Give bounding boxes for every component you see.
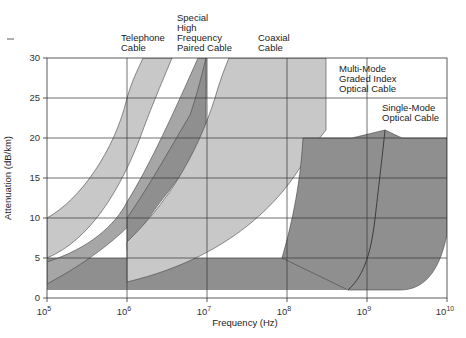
label-singlemode-optical: Single-Mode Optical Cable	[382, 103, 439, 123]
attenuation-chart: 0 5 10 15 20 25 30 105 106 107 108 109 1…	[0, 0, 466, 338]
x-tick-1e7: 107	[197, 305, 212, 317]
x-tick-1e6: 106	[117, 305, 132, 317]
y-axis-title: Attenuation (dB/km)	[2, 136, 13, 220]
x-tick-1e8: 108	[277, 305, 292, 317]
label-multimode-optical: Multi-Mode Graded Index Optical Cable	[339, 64, 397, 94]
y-tick-25: 25	[29, 92, 40, 103]
label-coaxial-cable: Coaxial Cable	[258, 33, 290, 53]
y-tick-15: 15	[29, 172, 40, 183]
y-tick-5: 5	[35, 252, 40, 263]
x-tick-1e9: 109	[357, 305, 372, 317]
y-tick-20: 20	[29, 132, 40, 143]
x-axis	[47, 298, 447, 302]
x-tick-1e10: 1010	[436, 305, 454, 317]
y-tick-30: 30	[29, 52, 40, 63]
x-tick-1e5: 105	[37, 305, 52, 317]
y-tick-0: 0	[35, 292, 40, 303]
label-telephone-cable: Telephone Cable	[121, 33, 165, 53]
y-axis	[43, 58, 47, 298]
y-tick-10: 10	[29, 212, 40, 223]
x-axis-title: Frequency (Hz)	[212, 317, 277, 328]
label-special-paired-cable: Special High Frequency Paired Cable	[177, 13, 232, 53]
